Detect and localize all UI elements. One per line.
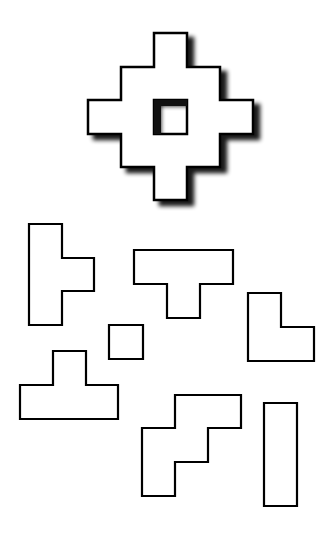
piece-t-up[interactable]: [20, 351, 118, 419]
piece-t-down[interactable]: [134, 250, 233, 318]
target-shape: [88, 33, 253, 200]
puzzle-canvas: [0, 0, 331, 538]
piece-square[interactable]: [109, 325, 143, 359]
target-outline: [88, 33, 253, 200]
piece-stair[interactable]: [142, 395, 241, 496]
piece-l[interactable]: [248, 293, 314, 361]
puzzle-svg: [0, 0, 331, 538]
piece-t-vertical[interactable]: [29, 224, 94, 325]
target-hole-shadow: [154, 100, 187, 134]
loose-pieces: [20, 224, 314, 506]
piece-bar[interactable]: [264, 403, 297, 506]
